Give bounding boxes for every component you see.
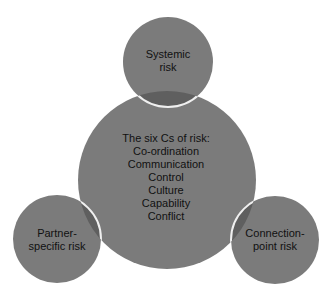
top-label-line: Systemic [146, 48, 191, 61]
top-circle-label: Systemic risk [146, 48, 191, 74]
center-item: Capability [122, 197, 209, 210]
center-title: The six Cs of risk: [122, 132, 209, 145]
left-label-line: Partner- [29, 227, 86, 240]
right-label-line: Connection- [245, 227, 304, 240]
center-item: Communication [122, 158, 209, 171]
center-item: Co-ordination [122, 145, 209, 158]
right-label-line: point risk [245, 240, 304, 253]
center-item: Control [122, 171, 209, 184]
left-circle-label: Partner- specific risk [29, 227, 86, 253]
center-item: Culture [122, 184, 209, 197]
top-label-line: risk [146, 61, 191, 74]
center-item: Conflict [122, 210, 209, 223]
right-circle-label: Connection- point risk [245, 227, 304, 253]
center-circle-label: The six Cs of risk: Co-ordination Commun… [122, 132, 209, 223]
left-label-line: specific risk [29, 240, 86, 253]
